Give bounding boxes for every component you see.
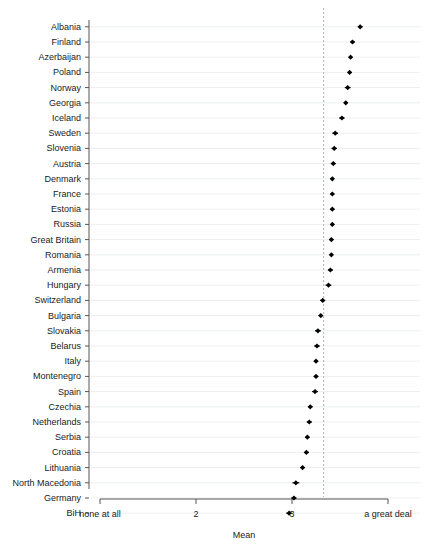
data-point bbox=[329, 252, 334, 257]
data-point bbox=[314, 343, 319, 348]
category-label-croatia: Croatia bbox=[0, 448, 81, 457]
category-label-netherlands: Netherlands bbox=[0, 418, 81, 427]
category-label-austria: Austria bbox=[0, 159, 81, 168]
data-point bbox=[329, 237, 334, 242]
data-point bbox=[312, 389, 317, 394]
data-point bbox=[330, 207, 335, 212]
data-point bbox=[326, 283, 331, 288]
data-point bbox=[313, 374, 318, 379]
x-tick-label-2: 3 bbox=[289, 510, 294, 519]
category-label-iceland: Iceland bbox=[0, 114, 81, 123]
data-point bbox=[330, 222, 335, 227]
category-label-germany: Germany bbox=[0, 494, 81, 503]
category-label-bih: BiH bbox=[0, 509, 81, 518]
x-tick-label-3: a great deal bbox=[364, 510, 412, 519]
data-point bbox=[330, 176, 335, 181]
category-label-romania: Romania bbox=[0, 250, 81, 259]
category-label-estonia: Estonia bbox=[0, 205, 81, 214]
category-label-slovenia: Slovenia bbox=[0, 144, 81, 153]
category-label-bulgaria: Bulgaria bbox=[0, 311, 81, 320]
data-point bbox=[332, 146, 337, 151]
data-point bbox=[300, 465, 305, 470]
category-label-france: France bbox=[0, 190, 81, 199]
category-label-norway: Norway bbox=[0, 83, 81, 92]
data-point bbox=[339, 115, 344, 120]
data-point bbox=[304, 450, 309, 455]
category-label-north-macedonia: North Macedonia bbox=[0, 478, 81, 487]
category-label-czechia: Czechia bbox=[0, 402, 81, 411]
category-label-finland: Finland bbox=[0, 38, 81, 47]
data-point bbox=[307, 419, 312, 424]
category-label-armenia: Armenia bbox=[0, 266, 81, 275]
data-point bbox=[333, 131, 338, 136]
category-label-spain: Spain bbox=[0, 387, 81, 396]
data-point bbox=[348, 55, 353, 60]
category-label-albania: Albania bbox=[0, 22, 81, 31]
category-label-lithuania: Lithuania bbox=[0, 463, 81, 472]
y-axis-ticks bbox=[85, 27, 89, 513]
category-label-italy: Italy bbox=[0, 357, 81, 366]
data-point bbox=[328, 267, 333, 272]
category-label-slovakia: Slovakia bbox=[0, 326, 81, 335]
x-tick-label-0: none at all bbox=[79, 510, 121, 519]
category-label-great-britain: Great Britain bbox=[0, 235, 81, 244]
category-label-serbia: Serbia bbox=[0, 433, 81, 442]
data-point bbox=[318, 313, 323, 318]
data-point bbox=[313, 359, 318, 364]
gridlines bbox=[90, 27, 420, 513]
x-axis-ticks bbox=[100, 499, 388, 504]
category-label-belarus: Belarus bbox=[0, 342, 81, 351]
category-label-poland: Poland bbox=[0, 68, 81, 77]
category-label-montenegro: Montenegro bbox=[0, 372, 81, 381]
category-label-russia: Russia bbox=[0, 220, 81, 229]
category-label-georgia: Georgia bbox=[0, 98, 81, 107]
data-point bbox=[330, 191, 335, 196]
data-point bbox=[293, 480, 298, 485]
data-point bbox=[320, 298, 325, 303]
category-label-switzerland: Switzerland bbox=[0, 296, 81, 305]
dot-plot-chart: AlbaniaFinlandAzerbaijanPolandNorwayGeor… bbox=[0, 0, 427, 550]
data-point bbox=[358, 24, 363, 29]
category-label-hungary: Hungary bbox=[0, 281, 81, 290]
data-point bbox=[343, 100, 348, 105]
category-label-azerbaijan: Azerbaijan bbox=[0, 53, 81, 62]
data-point bbox=[347, 70, 352, 75]
data-point bbox=[331, 161, 336, 166]
data-point bbox=[305, 435, 310, 440]
data-point bbox=[308, 404, 313, 409]
x-axis-title: Mean bbox=[233, 531, 256, 540]
data-point bbox=[350, 39, 355, 44]
x-tick-label-1: 2 bbox=[193, 510, 198, 519]
data-point bbox=[345, 85, 350, 90]
category-label-denmark: Denmark bbox=[0, 174, 81, 183]
data-point bbox=[315, 328, 320, 333]
category-label-sweden: Sweden bbox=[0, 129, 81, 138]
